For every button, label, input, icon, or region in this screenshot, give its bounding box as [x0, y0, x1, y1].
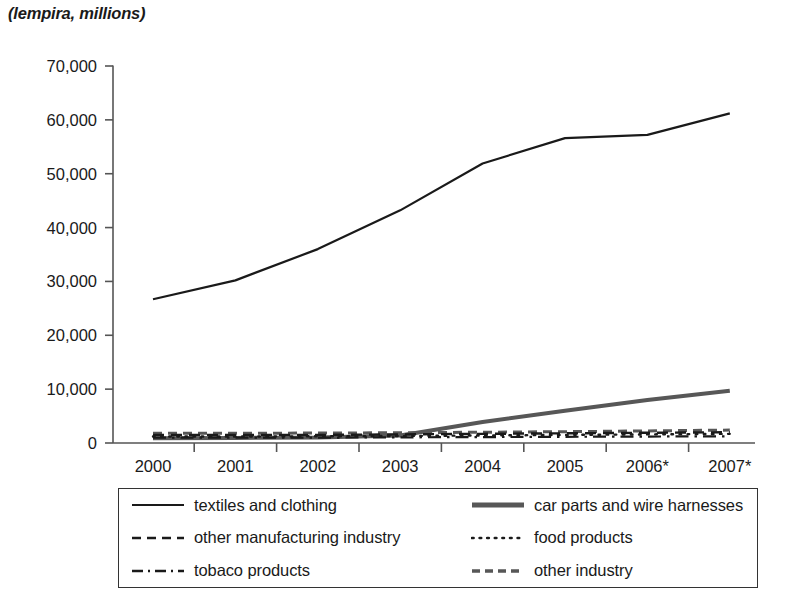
legend-swatch-icon [471, 564, 525, 578]
x-axis-tick-label: 2004 [441, 457, 523, 476]
y-axis-tick-label: 50,000 [0, 164, 97, 183]
y-axis-tick-label: 30,000 [0, 272, 97, 291]
legend-entry: other manufacturing industry [131, 528, 471, 547]
y-axis-tick-label: 60,000 [0, 110, 97, 129]
series-line [153, 113, 730, 299]
x-axis-tick-label: 2000 [112, 457, 194, 476]
chart-root: (lempira, millions) 010,00020,00030,0004… [0, 0, 792, 613]
legend-entry: textiles and clothing [131, 496, 471, 515]
x-axis-tick-label: 2002 [277, 457, 359, 476]
y-axis-tick-label: 0 [0, 434, 97, 453]
legend-swatch-icon [471, 498, 525, 512]
y-axis-tick-label: 40,000 [0, 218, 97, 237]
legend-entry: other industry [471, 561, 757, 580]
y-axis-tick-label: 10,000 [0, 380, 97, 399]
plot-area [0, 0, 792, 480]
legend-entry: car parts and wire harnesses [471, 496, 757, 515]
legend-entry: tobaco products [131, 561, 471, 580]
x-axis-tick-label: 2003 [359, 457, 441, 476]
x-axis-tick-label: 2006* [606, 457, 688, 476]
legend-label: other industry [534, 561, 633, 580]
legend-label: car parts and wire harnesses [534, 496, 743, 515]
chart-legend: textiles and clothingcar parts and wire … [118, 488, 758, 588]
legend-label: textiles and clothing [194, 496, 337, 515]
legend-swatch-icon [131, 564, 185, 578]
x-axis-tick-label: 2005 [524, 457, 606, 476]
x-axis-tick-label: 2007* [689, 457, 771, 476]
y-axis-tick-label: 70,000 [0, 57, 97, 76]
legend-swatch-icon [131, 498, 185, 512]
legend-label: other manufacturing industry [194, 528, 400, 547]
legend-label: food products [534, 528, 633, 547]
legend-label: tobaco products [194, 561, 310, 580]
legend-swatch-icon [471, 531, 525, 545]
x-axis-tick-label: 2001 [194, 457, 276, 476]
legend-swatch-icon [131, 531, 185, 545]
legend-entry: food products [471, 528, 757, 547]
y-axis-tick-label: 20,000 [0, 326, 97, 345]
